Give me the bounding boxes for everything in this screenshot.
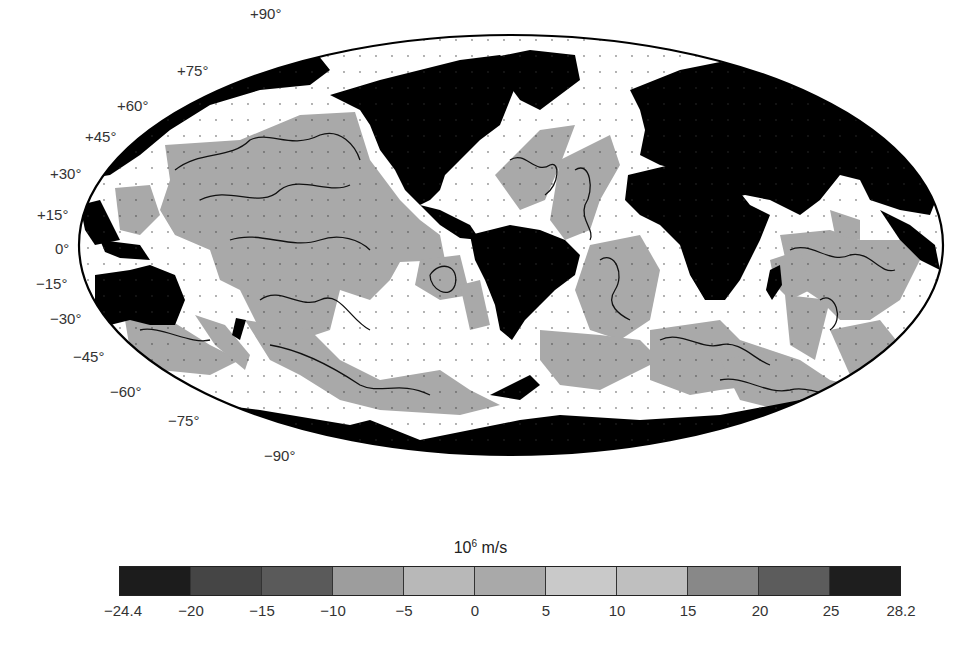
colorbar-tick: 10 <box>609 602 626 619</box>
colorbar-segment <box>404 567 475 595</box>
world-map <box>0 0 961 500</box>
colorbar-title: 106 m/s <box>0 538 961 557</box>
lat-label-p90: +90° <box>250 5 281 22</box>
colorbar-segment <box>262 567 333 595</box>
lat-label-p45: +45° <box>85 128 116 145</box>
lat-label-m45: −45° <box>73 348 104 365</box>
colorbar-segment <box>546 567 617 595</box>
lat-label-0: 0° <box>55 240 69 257</box>
colorbar-tick: 0 <box>471 602 479 619</box>
colorbar-tick: 15 <box>680 602 697 619</box>
colorbar-segment <box>475 567 546 595</box>
colorbar-title-base: 10 <box>454 539 472 556</box>
lat-label-m75: −75° <box>168 412 199 429</box>
colorbar-tick: 28.2 <box>886 602 915 619</box>
colorbar-segment <box>333 567 404 595</box>
lat-label-p60: +60° <box>117 97 148 114</box>
colorbar-segment <box>120 567 191 595</box>
colorbar-tick: −5 <box>395 602 412 619</box>
colorbar-tick: 20 <box>752 602 769 619</box>
colorbar-segment <box>688 567 759 595</box>
lat-label-p75: +75° <box>177 62 208 79</box>
lat-label-m15: −15° <box>36 275 67 292</box>
lat-label-m60: −60° <box>110 383 141 400</box>
colorbar-tick: −10 <box>320 602 345 619</box>
colorbar-segment <box>617 567 688 595</box>
lat-label-p15: +15° <box>37 206 68 223</box>
colorbar-tick: −15 <box>249 602 274 619</box>
colorbar-tick: −24.4 <box>104 602 142 619</box>
colorbar <box>119 566 901 596</box>
colorbar-title-unit: m/s <box>477 539 507 556</box>
colorbar-segment <box>191 567 262 595</box>
colorbar-tick: −20 <box>178 602 203 619</box>
colorbar-tick: 5 <box>542 602 550 619</box>
colorbar-tick: 25 <box>823 602 840 619</box>
grid-dots <box>60 20 960 480</box>
colorbar-segment <box>830 567 900 595</box>
lat-label-m90: −90° <box>264 447 295 464</box>
colorbar-segment <box>759 567 830 595</box>
lat-label-m30: −30° <box>50 310 81 327</box>
lat-label-p30: +30° <box>50 165 81 182</box>
